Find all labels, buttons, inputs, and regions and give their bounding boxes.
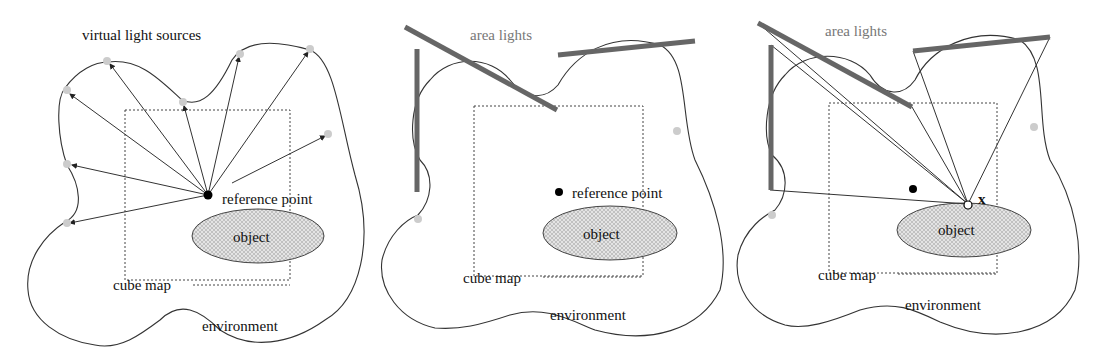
- panel-area-lights-shading: x area lights object cube map environmen…: [737, 23, 1079, 334]
- light-sample-icon: [673, 127, 681, 135]
- environment-outline: [737, 36, 1079, 334]
- title-area-lights: area lights: [470, 27, 532, 43]
- title-virtual-light-sources: virtual light sources: [82, 27, 201, 43]
- panel-virtual-light-sources: virtual light sources reference point ob…: [28, 27, 364, 346]
- label-cube-map: cube map: [113, 277, 171, 293]
- reference-point-dot: [909, 185, 917, 193]
- label-environment: environment: [202, 318, 279, 334]
- label-object: object: [583, 226, 620, 242]
- label-object: object: [233, 229, 270, 245]
- label-environment: environment: [550, 307, 627, 323]
- label-environment: environment: [905, 297, 982, 313]
- solid-angle-lines: [758, 23, 1050, 204]
- light-sample-icon: [768, 211, 776, 219]
- diagram-canvas: virtual light sources reference point ob…: [0, 0, 1101, 360]
- label-x: x: [978, 191, 986, 207]
- label-reference-point: reference point: [572, 185, 663, 201]
- label-cube-map: cube map: [463, 270, 521, 286]
- environment-outline: [28, 43, 364, 346]
- light-sample-icon: [1030, 123, 1038, 131]
- area-light-top: [558, 41, 695, 55]
- reference-point-dot: [555, 188, 563, 196]
- figure: virtual light sources reference point ob…: [0, 0, 1101, 360]
- title-area-lights: area lights: [825, 23, 887, 39]
- label-reference-point: reference point: [222, 191, 313, 207]
- reference-point-dot: [204, 191, 213, 200]
- label-object: object: [938, 222, 975, 238]
- environment-outline: [382, 41, 724, 336]
- light-sample-icon: [414, 215, 422, 223]
- label-cube-map: cube map: [818, 267, 876, 283]
- panel-area-lights: area lights reference point object cube …: [382, 27, 724, 336]
- shading-point-x: [964, 201, 972, 209]
